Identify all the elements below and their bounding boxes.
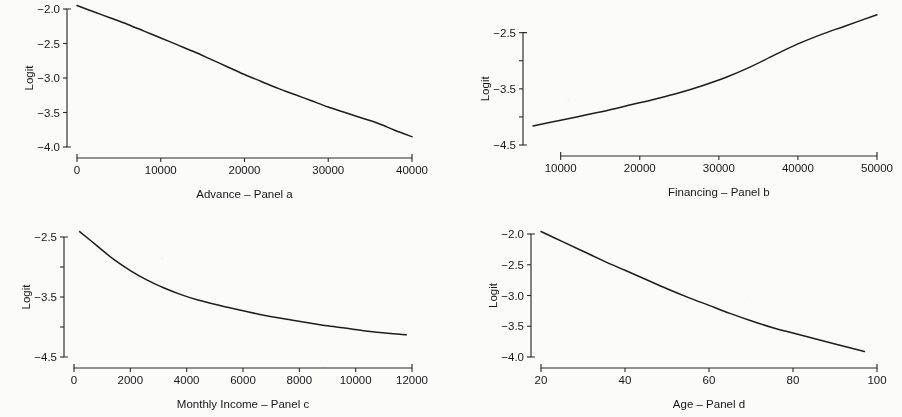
panel-d-x-ticklabel: 40 xyxy=(619,374,632,386)
panel-b-x-ticklabel: 10000 xyxy=(545,162,577,174)
panel-b-y-axis-title: Logit xyxy=(479,76,491,102)
panel-b-data-curve xyxy=(533,15,877,126)
panel-a-x-ticklabel: 10000 xyxy=(145,164,177,176)
panel-d-x-ticklabel: 20 xyxy=(535,374,548,386)
panel-d-age: −2.0−2.5−3.0−3.5−4.0Logit20406080100Age … xyxy=(451,209,902,417)
panel-a-data-curve xyxy=(77,6,412,137)
panel-a-x-ticklabel: 30000 xyxy=(312,164,344,176)
panel-d-y-axis-title: Logit xyxy=(487,282,499,308)
panel-c-x-ticklabel: 6000 xyxy=(230,374,256,386)
panel-a-x-ticklabel: 20000 xyxy=(229,164,261,176)
panel-b-x-axis: 1000020000300004000050000 xyxy=(545,152,893,174)
panel-a-y-ticklabel: −2.0 xyxy=(37,3,60,15)
panel-b-financing: −2.5−3.5−4.5Logit10000200003000040000500… xyxy=(451,0,902,208)
panel-c-x-ticklabel: 2000 xyxy=(118,374,144,386)
panel-d-x-axis-title: Age – Panel d xyxy=(673,398,745,410)
panel-b-x-ticklabel: 20000 xyxy=(624,162,656,174)
panel-b-x-axis-title: Financing – Panel b xyxy=(668,186,770,198)
panel-c-y-ticklabel: −3.5 xyxy=(34,291,57,303)
panel-b-y-ticklabel: −3.5 xyxy=(493,83,516,95)
panel-d-x-ticklabel: 60 xyxy=(703,374,716,386)
panel-d-y-ticklabel: −2.0 xyxy=(501,228,524,240)
panel-a-y-ticklabel: −4.0 xyxy=(37,141,60,153)
panel-c-y-ticklabel: −2.5 xyxy=(34,231,57,243)
panel-b-x-ticklabel: 50000 xyxy=(861,162,893,174)
panel-a-advance: −2.0−2.5−3.0−3.5−4.0Logit010000200003000… xyxy=(0,0,451,208)
panel-d-data-curve xyxy=(541,232,864,352)
panel-a-y-axis: −2.0−2.5−3.0−3.5−4.0 xyxy=(37,3,71,153)
panel-d-y-ticklabel: −2.5 xyxy=(501,259,524,271)
panel-b-x-ticklabel: 30000 xyxy=(703,162,735,174)
panel-a-x-axis-title: Advance – Panel a xyxy=(196,188,293,200)
panel-d-y-axis: −2.0−2.5−3.0−3.5−4.0 xyxy=(501,228,535,363)
panel-c-x-ticklabel: 10000 xyxy=(340,374,372,386)
panel-b-y-ticklabel: −4.5 xyxy=(493,139,516,151)
panel-a-x-axis: 010000200003000040000 xyxy=(74,154,428,176)
panel-c-x-axis-title: Monthly Income – Panel c xyxy=(177,398,310,410)
panel-d-x-ticklabel: 80 xyxy=(787,374,800,386)
panel-d-y-ticklabel: −4.0 xyxy=(501,351,524,363)
panel-c-canvas: −2.5−3.5−4.5Logit02000400060008000100001… xyxy=(0,209,451,417)
panel-a-y-ticklabel: −2.5 xyxy=(37,38,60,50)
panel-b-canvas: −2.5−3.5−4.5Logit10000200003000040000500… xyxy=(451,0,902,208)
panel-c-x-ticklabel: 0 xyxy=(71,374,77,386)
panel-c-x-ticklabel: 12000 xyxy=(396,374,428,386)
panel-d-y-ticklabel: −3.5 xyxy=(501,320,524,332)
panel-d-canvas: −2.0−2.5−3.0−3.5−4.0Logit20406080100Age … xyxy=(451,209,902,417)
panel-c-data-curve xyxy=(80,232,407,335)
panel-a-y-ticklabel: −3.5 xyxy=(37,107,60,119)
panel-d-x-ticklabel: 100 xyxy=(867,374,886,386)
panel-b-x-ticklabel: 40000 xyxy=(782,162,814,174)
figure-four-panel-logit-plots: −2.0−2.5−3.0−3.5−4.0Logit010000200003000… xyxy=(0,0,902,417)
panel-c-x-axis: 020004000600080001000012000 xyxy=(71,364,428,386)
panel-a-x-ticklabel: 40000 xyxy=(396,164,428,176)
panel-b-y-ticklabel: −2.5 xyxy=(493,27,516,39)
panel-b-y-axis: −2.5−3.5−4.5 xyxy=(493,27,527,151)
panel-c-x-ticklabel: 4000 xyxy=(174,374,200,386)
panel-d-x-axis: 20406080100 xyxy=(535,364,887,386)
panel-a-y-ticklabel: −3.0 xyxy=(37,72,60,84)
panel-c-y-ticklabel: −4.5 xyxy=(34,351,57,363)
panel-a-y-axis-title: Logit xyxy=(23,65,35,91)
panel-c-y-axis-title: Logit xyxy=(20,284,32,310)
panel-d-y-ticklabel: −3.0 xyxy=(501,290,524,302)
panel-c-monthly-income: −2.5−3.5−4.5Logit02000400060008000100001… xyxy=(0,209,451,417)
panel-a-canvas: −2.0−2.5−3.0−3.5−4.0Logit010000200003000… xyxy=(0,0,451,208)
panel-c-x-ticklabel: 8000 xyxy=(287,374,313,386)
panel-c-y-axis: −2.5−3.5−4.5 xyxy=(34,231,68,363)
panel-a-x-ticklabel: 0 xyxy=(74,164,80,176)
